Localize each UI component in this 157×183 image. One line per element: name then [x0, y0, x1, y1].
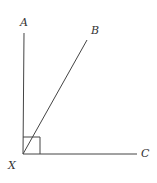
ray-xa [23, 33, 24, 154]
label-x: X [7, 159, 17, 172]
label-a: A [19, 16, 28, 29]
label-b: B [90, 24, 99, 37]
angle-diagram: A B C X [0, 0, 157, 183]
label-c: C [141, 147, 150, 160]
